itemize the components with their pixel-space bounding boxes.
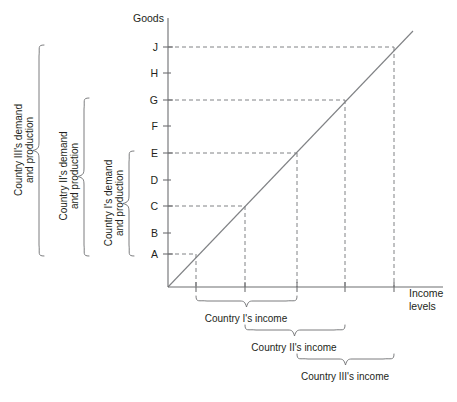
- diagram-canvas: J H G F E D C B A Goods Income levels Co…: [0, 0, 457, 402]
- brace-label-country-1-line2: and production: [114, 170, 125, 236]
- brace-country-1-income: Country I's income: [196, 296, 297, 324]
- y-axis-title: Goods: [133, 12, 164, 24]
- brace-label-country-1-line1: Country I's demand: [103, 160, 114, 246]
- brace-country-3-income: Country III's income: [297, 354, 394, 382]
- brace-label-country-2-line1: Country II's demand: [58, 131, 69, 220]
- x-axis-title-line1: Income: [409, 287, 444, 299]
- x-axis-title-line2: levels: [409, 300, 436, 312]
- brace-label-income-2: Country II's income: [251, 342, 337, 353]
- y-label-D: D: [150, 174, 158, 186]
- brace-path-income-2: [245, 325, 345, 336]
- brace-country-1-demand: Country I's demand and production: [103, 151, 134, 256]
- demand-production-line: [168, 31, 413, 287]
- y-axis-tick-labels: J H G F E D C B A: [150, 41, 159, 260]
- brace-path-income-3: [297, 354, 394, 365]
- brace-label-country-3-line1: Country III's demand: [13, 104, 24, 196]
- y-label-E: E: [151, 147, 158, 159]
- y-label-G: G: [150, 94, 158, 106]
- y-label-H: H: [150, 67, 158, 79]
- brace-label-country-3-line2: and production: [24, 117, 35, 183]
- y-label-J: J: [153, 41, 158, 53]
- brace-country-2-income: Country II's income: [245, 325, 345, 353]
- brace-country-2-demand: Country II's demand and production: [58, 98, 89, 256]
- brace-country-3-demand: Country III's demand and production: [13, 45, 44, 256]
- brace-label-income-1: Country I's income: [205, 313, 288, 324]
- brace-label-income-3: Country III's income: [301, 371, 389, 382]
- brace-path-income-1: [196, 296, 297, 307]
- income-goods-diagram: J H G F E D C B A Goods Income levels Co…: [0, 0, 457, 402]
- y-label-C: C: [150, 200, 158, 212]
- brace-label-country-2-line2: and production: [69, 143, 80, 209]
- y-label-B: B: [151, 227, 158, 239]
- y-label-F: F: [152, 120, 158, 132]
- y-label-A: A: [151, 248, 158, 260]
